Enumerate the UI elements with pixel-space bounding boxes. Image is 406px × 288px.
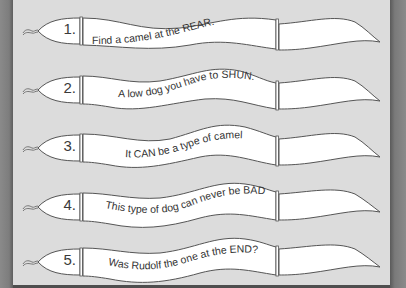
serpent-number: 1. — [36, 20, 76, 37]
serpent-number: 2. — [36, 79, 76, 96]
puzzle-panel: Find a camel at the REAR. 1. A low dog y… — [0, 0, 406, 288]
serpent-tail[interactable] — [279, 190, 380, 220]
serpent-row-2: A low dog you have to SHUN. 2. — [0, 59, 406, 117]
serpent-tail[interactable] — [279, 19, 380, 50]
serpent-row-5: Was Rudolf the one at the END? 5. — [0, 233, 406, 288]
serpent-number: 3. — [36, 137, 76, 154]
serpent-row-1: Find a camel at the REAR. 1. — [0, 0, 406, 58]
serpent-tail[interactable] — [279, 134, 380, 165]
serpent-list: Find a camel at the REAR. 1. A low dog y… — [0, 0, 406, 288]
serpent-tail[interactable] — [279, 245, 380, 275]
serpent-tail[interactable] — [279, 78, 380, 109]
serpent-number: 4. — [36, 196, 76, 213]
serpent-number: 5. — [36, 251, 76, 268]
serpent-row-3: It CAN be a type of camel 3. — [0, 117, 406, 175]
serpent-row-4: This type of dog can never be BAD! 4. — [0, 176, 406, 234]
